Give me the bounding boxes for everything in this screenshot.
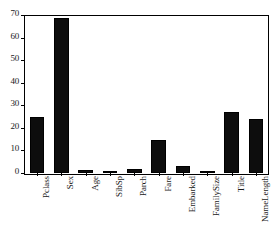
bar-slot [78,16,93,173]
x-tick-mark [110,173,111,176]
y-tick-label: 20 [10,122,19,131]
x-tick-label: Title [236,176,246,192]
y-tick-label: 10 [10,144,19,153]
y-tick-label: 0 [15,167,19,176]
bar-slot [54,16,69,173]
x-tick-label: NameLength [260,176,270,222]
x-tick-mark [159,173,160,176]
bar-slot [176,16,191,173]
x-tick-mark [61,173,62,176]
bar-slot [103,16,118,173]
x-axis: PclassSexAgeSibSpParchFareEmbarkedFamily… [25,176,268,236]
bar-slot [30,16,45,173]
x-tick-mark [183,173,184,176]
x-tick-mark [134,173,135,176]
x-tick-label: Sex [65,176,75,189]
bar-slot [224,16,239,173]
bar-slot [151,16,166,173]
x-tick-label: SibSp [114,176,124,197]
bar-slot [249,16,264,173]
y-tick-label: 30 [10,99,19,108]
bar-title [224,112,239,173]
bar-slot [200,16,215,173]
y-axis: 010203040506070 [0,0,24,174]
bars-container [25,16,268,173]
y-tick-label: 40 [10,77,19,86]
x-tick-label: Parch [138,176,148,196]
x-tick-mark [37,173,38,176]
x-tick-mark [256,173,257,176]
bar-slot [127,16,142,173]
y-tick-label: 50 [10,54,19,63]
y-tick-label: 60 [10,32,19,41]
bar-chart-figure: 010203040506070 PclassSexAgeSibSpParchFa… [0,0,274,236]
bar-fare [151,140,166,173]
x-tick-label: FamilySize [211,176,221,216]
y-tick-label: 70 [10,9,19,18]
bar-pclass [30,117,45,173]
x-tick-label: Pclass [41,176,51,198]
x-tick-label: Fare [163,176,173,192]
x-tick-mark [232,173,233,176]
x-tick-label: Age [90,176,100,191]
bar-sex [54,18,69,173]
x-tick-label: Embarked [187,176,197,212]
x-tick-mark [86,173,87,176]
bar-namelength [249,119,264,173]
x-tick-mark [207,173,208,176]
